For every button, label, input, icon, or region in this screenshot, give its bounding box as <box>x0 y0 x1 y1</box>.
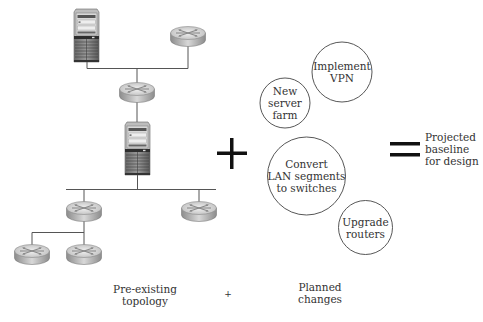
router-sub-left-icon <box>15 245 50 265</box>
bubble-new-server-farm: New server farm <box>268 85 302 121</box>
bubble-line: Convert <box>268 158 346 170</box>
plus-operator-icon <box>217 138 247 169</box>
bubble-line: New <box>268 85 302 97</box>
bubble-line: routers <box>342 228 389 240</box>
caption-pre-existing-topology: Pre-existing topology <box>100 283 190 307</box>
bubble-implement-vpn: Implement VPN <box>313 60 371 84</box>
server-middle-icon <box>125 122 150 175</box>
bubble-line: server <box>268 97 302 109</box>
diagram-graphics <box>0 0 483 322</box>
bubble-convert-lan: Convert LAN segments to switches <box>268 158 346 194</box>
bubble-line: Upgrade <box>342 216 389 228</box>
projected-baseline-label: Projected baseline for design <box>425 131 479 167</box>
router-top-right-icon <box>171 27 206 47</box>
server-top-icon <box>74 9 99 62</box>
caption-line: changes <box>290 293 350 305</box>
router-sub-right-icon <box>67 245 102 265</box>
caption-planned-changes: Planned changes <box>290 281 350 305</box>
router-middle-icon <box>120 83 155 103</box>
caption-line: Pre-existing <box>100 283 190 295</box>
bubble-line: VPN <box>313 72 371 84</box>
bubble-line: to switches <box>268 182 346 194</box>
caption-plus: + <box>218 288 238 300</box>
bubble-line: farm <box>268 109 302 121</box>
equals-operator-icon <box>390 142 420 157</box>
caption-line: topology <box>100 295 190 307</box>
result-line: Projected <box>425 131 479 143</box>
router-lan-left-icon <box>67 202 102 222</box>
result-line: for design <box>425 155 479 167</box>
router-lan-right-icon <box>182 202 217 222</box>
caption-line: Planned <box>290 281 350 293</box>
bubble-line: Implement <box>313 60 371 72</box>
network-design-diagram: New server farm Implement VPN Convert LA… <box>0 0 483 322</box>
result-line: baseline <box>425 143 479 155</box>
bubble-line: LAN segments <box>268 170 346 182</box>
bubble-upgrade-routers: Upgrade routers <box>342 216 389 240</box>
caption-plus-sign: + <box>218 288 238 300</box>
